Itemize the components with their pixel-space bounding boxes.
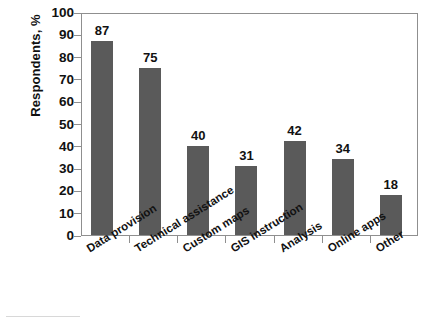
y-axis-tick-label: 50 [18, 118, 74, 132]
bar-value-label: 34 [324, 142, 362, 155]
y-axis-tick-label: 0 [18, 229, 74, 243]
y-axis-tick-label: 80 [18, 51, 74, 65]
scan-artifact-line [6, 316, 80, 317]
y-axis-tick-label: 30 [18, 162, 74, 176]
x-axis-tick [274, 236, 275, 243]
bar[interactable] [91, 41, 113, 235]
bar-value-label: 18 [372, 178, 410, 191]
x-axis-tick [129, 236, 130, 243]
y-axis-tick-label: 60 [18, 95, 74, 109]
y-axis-tick-label: 90 [18, 28, 74, 42]
y-axis-tick [74, 169, 81, 170]
x-axis-tick [322, 236, 323, 243]
y-axis-tick-labels: 1009080706050403020100 [8, 0, 74, 325]
y-axis-tick [74, 102, 81, 103]
y-axis-tick-label: 70 [18, 73, 74, 87]
bar-slot: 75 [130, 14, 178, 235]
y-axis-tick [74, 79, 81, 80]
x-axis-tick [225, 236, 226, 243]
y-axis-tick-label: 10 [18, 207, 74, 221]
bar-value-label: 31 [227, 149, 265, 162]
y-axis-tick [74, 191, 81, 192]
y-axis-tick-label: 100 [18, 6, 74, 20]
y-axis-tick [74, 236, 81, 237]
bar-slot: 31 [226, 14, 274, 235]
y-axis-tick-label: 40 [18, 140, 74, 154]
y-axis-tick [74, 57, 81, 58]
bar-slot: 87 [82, 14, 130, 235]
y-axis-tick [74, 35, 81, 36]
y-axis-tick [74, 146, 81, 147]
bar-chart-figure: Respondents, % 1009080706050403020100 87… [0, 0, 433, 325]
y-axis-tick [74, 213, 81, 214]
bar-value-label: 42 [276, 124, 314, 137]
bar-slot: 18 [371, 14, 419, 235]
x-axis-tick [370, 236, 371, 243]
bar[interactable] [332, 159, 354, 235]
x-axis-tick [177, 236, 178, 243]
bar[interactable] [235, 166, 257, 235]
y-axis-tick-label: 20 [18, 184, 74, 198]
bar-value-label: 87 [83, 24, 121, 37]
bar-value-label: 75 [131, 51, 169, 64]
bars-container: 87754031423418 [82, 14, 417, 235]
y-axis-tick [74, 124, 81, 125]
bar-slot: 34 [323, 14, 371, 235]
bar-value-label: 40 [179, 129, 217, 142]
plot-area: 87754031423418 [81, 13, 418, 236]
y-axis-tick [74, 13, 81, 14]
